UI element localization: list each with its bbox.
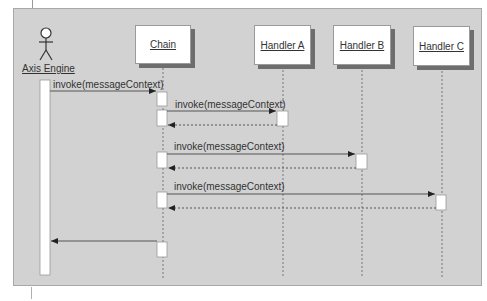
activation-chain-1 <box>157 92 167 106</box>
participant-label: Chain <box>150 39 176 50</box>
message-label-2: invoke(messageContext) <box>175 99 286 110</box>
activation-chain-2 <box>157 110 167 126</box>
activation-axis-engine <box>40 80 50 275</box>
participant-chain: Chain <box>135 25 191 64</box>
activation-handler-c <box>436 195 446 210</box>
participant-label: Handler B <box>340 40 384 51</box>
activation-chain-5 <box>157 242 167 257</box>
participant-handler-a: Handler A <box>254 25 311 65</box>
stick-figure-icon <box>39 28 53 60</box>
activation-handler-a <box>277 111 288 126</box>
activation-chain-4 <box>157 192 167 208</box>
participant-label: Handler C <box>419 41 464 52</box>
participant-label: Handler A <box>261 40 305 51</box>
participant-handler-c: Handler C <box>413 26 470 66</box>
participant-handler-b: Handler B <box>333 25 391 65</box>
activation-handler-b <box>356 154 367 169</box>
activation-chain-3 <box>157 152 167 168</box>
message-label-4: invoke(messageContext) <box>174 181 285 192</box>
message-label-3: invoke(messageContext) <box>174 141 285 152</box>
message-label-1: invoke(messageContext) <box>53 79 164 90</box>
actor-label-axis-engine: Axis Engine <box>22 63 75 74</box>
